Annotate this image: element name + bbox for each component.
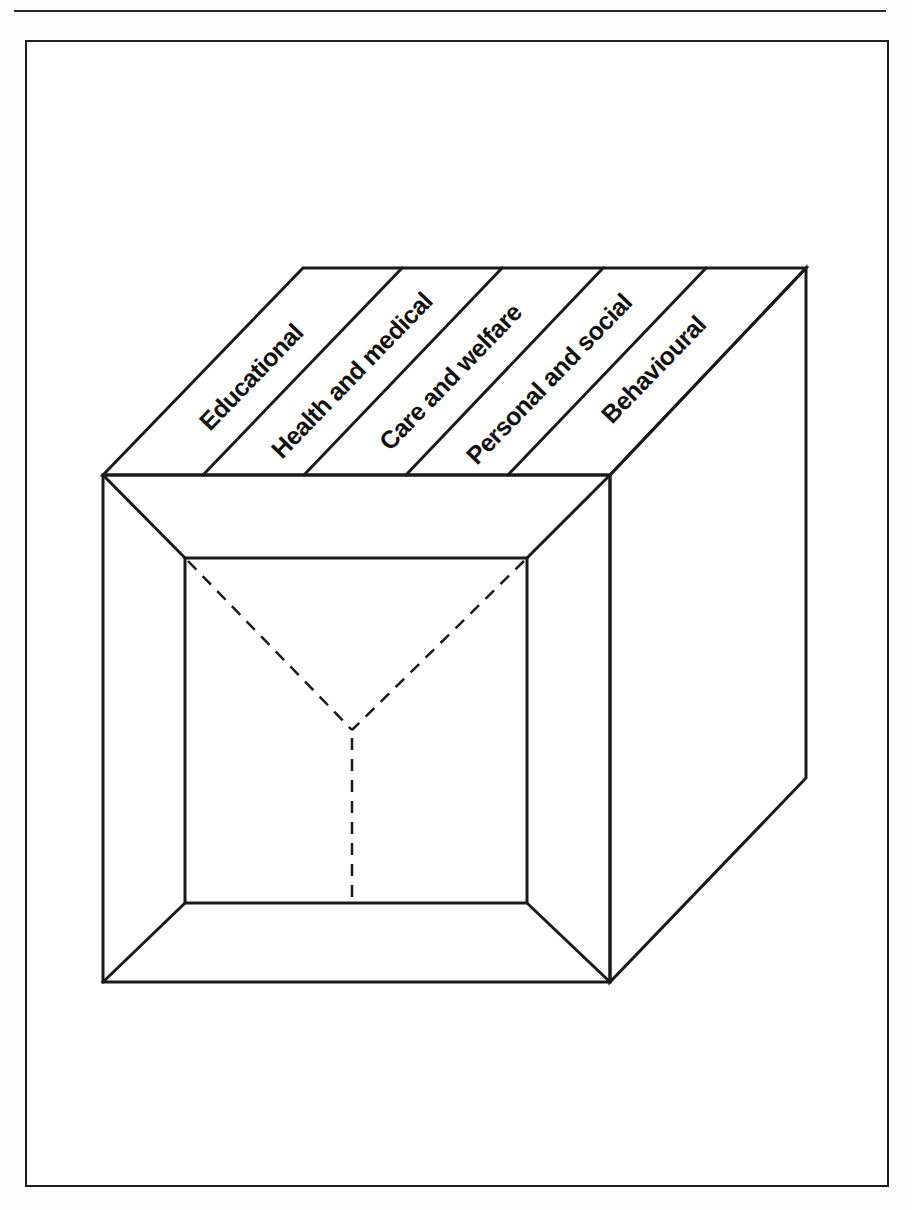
bevel-bottom-left [103, 903, 185, 982]
cube-diagram: Educational Health and medical Care and … [0, 0, 912, 1210]
label-health-and-medical: Health and medical [265, 287, 437, 464]
hidden-edge-left [188, 561, 352, 730]
bevel-top-left [103, 475, 185, 558]
label-personal-and-social: Personal and social [460, 288, 637, 470]
hidden-edges [188, 561, 524, 900]
bevel-top-right [527, 475, 610, 558]
hidden-edge-right [352, 561, 524, 730]
bevel-bottom-right [527, 903, 610, 982]
page: Educational Health and medical Care and … [0, 0, 912, 1210]
front-bevels [103, 475, 610, 982]
stripe-labels: Educational Health and medical Care and … [193, 287, 711, 470]
